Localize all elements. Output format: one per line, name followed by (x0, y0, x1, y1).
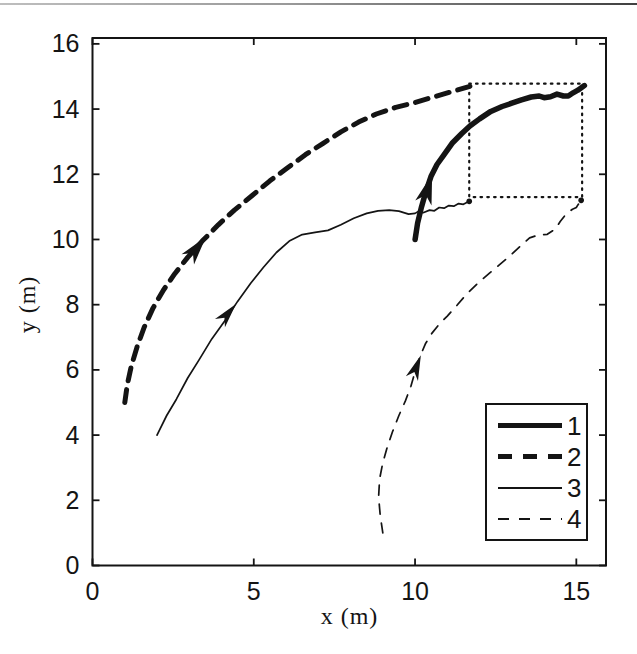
legend-entry-3: 3 (487, 475, 586, 501)
svg-text:14: 14 (52, 95, 80, 123)
plot-canvas: 0510150246810121416 (0, 0, 637, 654)
svg-text:15: 15 (562, 577, 590, 605)
legend-label-4: 4 (567, 506, 581, 532)
legend-line-sample-thick-dashed (498, 454, 562, 459)
legend-line-sample-thin-dashed (498, 518, 562, 520)
legend-entry-2: 2 (487, 444, 586, 470)
legend-line-sample-thick-solid (498, 423, 562, 428)
svg-text:12: 12 (52, 160, 80, 188)
legend-entry-1: 1 (487, 413, 586, 439)
legend-line-sample-thin-solid (498, 487, 562, 489)
figure: 0510150246810121416 x (m) y (m) 1 2 3 4 (0, 0, 637, 654)
svg-text:2: 2 (66, 486, 80, 514)
legend: 1 2 3 4 (485, 403, 588, 541)
legend-label-1: 1 (567, 413, 581, 439)
svg-text:5: 5 (247, 577, 261, 605)
legend-entry-4: 4 (487, 506, 586, 532)
svg-text:16: 16 (52, 29, 80, 57)
y-axis-label: y (m) (14, 177, 41, 432)
svg-text:10: 10 (52, 225, 80, 253)
svg-text:6: 6 (66, 355, 80, 383)
svg-text:4: 4 (66, 421, 80, 449)
svg-text:10: 10 (401, 577, 429, 605)
svg-text:8: 8 (66, 290, 80, 318)
legend-label-2: 2 (567, 444, 581, 470)
svg-text:0: 0 (66, 551, 80, 579)
legend-label-3: 3 (567, 475, 581, 501)
x-axis-label: x (m) (222, 603, 477, 630)
svg-text:0: 0 (86, 577, 100, 605)
